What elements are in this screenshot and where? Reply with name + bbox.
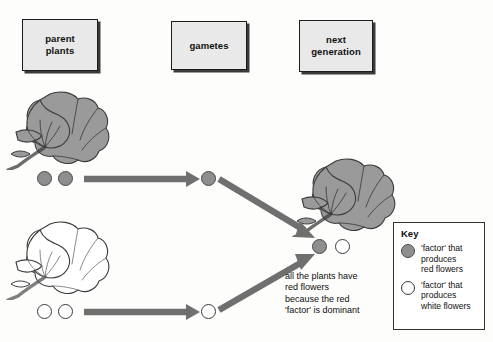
- white-gamete-factor: [201, 304, 216, 319]
- key-title: Key: [401, 228, 478, 239]
- arrow-white-parent-to-gamete: [82, 303, 202, 321]
- key-swatch-red-factor-icon: [401, 244, 415, 258]
- red-gamete-factor: [201, 171, 216, 186]
- red-parent-flower: [2, 88, 114, 170]
- stage-label-parent-plants-text: parent plants: [45, 33, 75, 57]
- arrow-red-parent-to-gamete: [82, 170, 202, 188]
- key-entry-red-text: 'factor' that produces red flowers: [421, 243, 463, 275]
- stage-label-gametes-text: gametes: [189, 40, 228, 52]
- key-swatch-white-factor-icon: [401, 281, 415, 295]
- offspring-annotation-text: all the plants have red flowers because …: [285, 271, 390, 317]
- genetics-cross-diagram: parent plants gametes next generation: [0, 0, 493, 342]
- white-parent-flower: [2, 218, 114, 300]
- arrow-red-gamete-to-offspring: [216, 176, 322, 248]
- key-entry-red: 'factor' that produces red flowers: [401, 243, 478, 275]
- red-parent-factor-2: [58, 171, 73, 186]
- key-entry-white: 'factor' that produces white flowers: [401, 280, 478, 312]
- red-parent-factor-1: [37, 171, 52, 186]
- white-parent-factor-1: [37, 304, 52, 319]
- white-parent-factor-2: [58, 304, 73, 319]
- stage-label-next-generation: next generation: [299, 20, 373, 72]
- key-entry-white-text: 'factor' that produces white flowers: [421, 280, 471, 312]
- key-legend: Key 'factor' that produces red flowers '…: [393, 222, 485, 330]
- stage-label-next-generation-text: next generation: [311, 34, 361, 58]
- stage-label-parent-plants: parent plants: [22, 19, 98, 71]
- stage-label-gametes: gametes: [171, 21, 247, 70]
- offspring-factor-white: [335, 239, 350, 254]
